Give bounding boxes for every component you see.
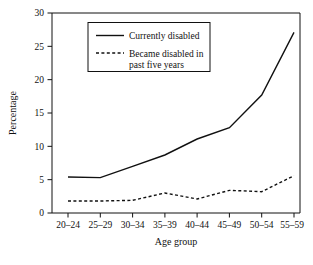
- x-axis-tick-labels: 20–24 25–29 30–34 35–39 40–44 45–49 50–5…: [56, 220, 304, 230]
- legend-label-became-disabled-line1: Became disabled in: [129, 49, 204, 59]
- chart-legend: Currently disabled Became disabled in pa…: [88, 23, 210, 72]
- y-tick-label-20: 20: [35, 75, 45, 85]
- y-axis-tick-labels: 0 5 10 15 20 25 30: [35, 8, 45, 218]
- x-tick-label-25-29: 25–29: [88, 220, 112, 230]
- x-tick-label-50-54: 50–54: [250, 220, 274, 230]
- y-tick-label-10: 10: [35, 142, 45, 152]
- series-became-disabled: [68, 176, 294, 201]
- y-tick-label-0: 0: [39, 208, 44, 218]
- legend-label-became-disabled-line2: past five years: [129, 60, 184, 70]
- y-tick-label-30: 30: [35, 8, 45, 18]
- y-tick-label-25: 25: [35, 42, 45, 52]
- y-axis-ticks: [48, 13, 53, 213]
- line-chart-canvas: 0 5 10 15 20 25 30 Percentage 20–24 25–2…: [0, 0, 313, 265]
- x-axis-ticks: [68, 213, 294, 218]
- x-tick-label-20-24: 20–24: [56, 220, 80, 230]
- x-tick-label-45-49: 45–49: [218, 220, 242, 230]
- legend-label-currently-disabled: Currently disabled: [129, 31, 200, 41]
- x-tick-label-40-44: 40–44: [185, 220, 209, 230]
- x-tick-label-55-59: 55–59: [280, 220, 304, 230]
- chart-figure: 0 5 10 15 20 25 30 Percentage 20–24 25–2…: [0, 0, 313, 265]
- x-tick-label-35-39: 35–39: [153, 220, 177, 230]
- y-axis-title: Percentage: [7, 91, 18, 135]
- x-axis-title: Age group: [155, 236, 198, 247]
- y-tick-label-5: 5: [39, 175, 44, 185]
- y-tick-label-15: 15: [35, 108, 45, 118]
- x-tick-label-30-34: 30–34: [121, 220, 145, 230]
